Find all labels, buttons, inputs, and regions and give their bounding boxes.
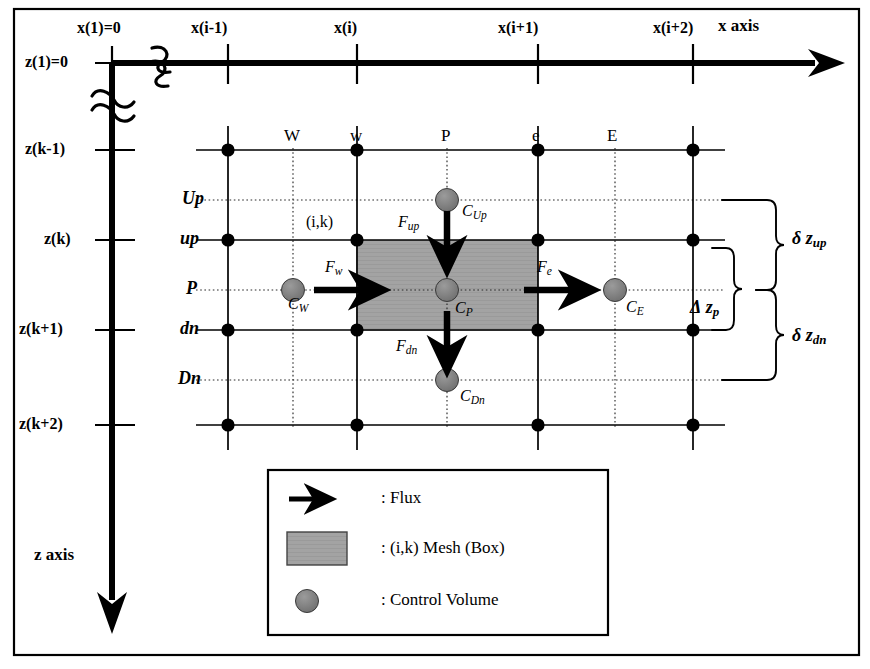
- flux-label-F_up: Fup: [398, 213, 419, 232]
- x-tick-label-4: x(i+2): [653, 19, 693, 37]
- conc-base-C_P: C: [455, 299, 466, 316]
- concentration-label-C_E: CE: [626, 298, 644, 317]
- flux-sub-F_e: e: [547, 265, 552, 277]
- flux-label-F_dn: Fdn: [396, 337, 417, 356]
- x-tick-label-3: x(i+1): [498, 19, 538, 37]
- z-tick-label-2: z(k): [44, 230, 71, 248]
- z-tick-label-0: z(1)=0: [25, 53, 68, 71]
- flux-base-F_dn: F: [396, 337, 406, 354]
- conc-base-C_W: C: [288, 295, 299, 312]
- spacing-base-z-dn: z: [806, 325, 813, 345]
- concentration-label-C_W: CW: [288, 295, 308, 314]
- conc-sub-C_E: E: [637, 305, 644, 317]
- z-tick-label-4: z(k+2): [19, 415, 63, 433]
- legend-glyph-gray-rect: [287, 532, 347, 565]
- flux-label-F_e: Fe: [537, 258, 552, 277]
- legend-text-flux: : Flux: [381, 488, 421, 508]
- row-label-up: up: [180, 228, 199, 249]
- row-label-Dn: Dn: [178, 368, 201, 389]
- z-tick-label-1: z(k-1): [25, 140, 65, 158]
- column-label-W: W: [284, 126, 300, 146]
- flux-sub-F_up: up: [408, 220, 420, 232]
- column-label-e: e: [532, 126, 540, 146]
- x-tick-label-1: x(i-1): [191, 19, 227, 37]
- x-tick-label-2: x(i): [334, 19, 357, 37]
- spacing-label-delta-z-up: δ zup: [792, 228, 826, 251]
- x-tick-label-0: x(1)=0: [77, 19, 121, 37]
- spacing-sub-p: p: [713, 304, 719, 319]
- brace-delta-z-dn: [722, 290, 784, 380]
- conc-base-C_Up: C: [462, 202, 473, 219]
- spacing-symbol-Delta-p: Δ: [690, 297, 701, 317]
- flux-base-F_e: F: [537, 258, 547, 275]
- flux-sub-F_dn: dn: [406, 344, 418, 356]
- x-axis: [112, 44, 845, 86]
- conc-sub-C_Dn: Dn: [471, 394, 485, 406]
- column-label-w: w: [350, 126, 362, 146]
- spacing-base-z-p: z: [706, 297, 713, 317]
- column-label-P: P: [441, 126, 450, 146]
- diagram-svg: [0, 0, 870, 669]
- conc-sub-C_P: P: [466, 306, 473, 318]
- conc-sub-C_Up: Up: [473, 209, 487, 221]
- spacing-symbol-delta-up: δ: [792, 228, 801, 248]
- spacing-label-Delta-z-p: Δ zp: [690, 297, 719, 320]
- control-volume-C_E: [604, 279, 627, 302]
- conc-base-C_E: C: [626, 298, 637, 315]
- flux-label-F_w: Fw: [325, 258, 342, 277]
- z-tick-label-3: z(k+1): [19, 320, 63, 338]
- control-volume-C_Up: [436, 189, 459, 212]
- figure-canvas: x axis z axis x(1)=0 x(i-1) x(i) x(i+1) …: [0, 0, 870, 669]
- row-label-P: P: [186, 278, 197, 299]
- spacing-sub-up: up: [813, 235, 827, 250]
- z-axis-label: z axis: [34, 545, 74, 565]
- row-label-Up: Up: [182, 188, 204, 209]
- legend-text-mesh-box: : (i,k) Mesh (Box): [381, 538, 505, 558]
- row-label-dn: dn: [180, 318, 199, 339]
- x-axis-break-symbol: [150, 47, 170, 86]
- conc-sub-C_W: W: [299, 302, 309, 314]
- spacing-symbol-delta-dn: δ: [792, 325, 801, 345]
- flux-base-F_w: F: [325, 258, 335, 275]
- mesh-cell-index-label: (i,k): [306, 213, 333, 231]
- spacing-braces: [712, 200, 784, 380]
- flux-sub-F_w: w: [335, 265, 343, 277]
- conc-base-C_Dn: C: [460, 387, 471, 404]
- concentration-label-C_P: CP: [455, 299, 473, 318]
- z-axis: [92, 63, 135, 634]
- spacing-label-delta-z-dn: δ zdn: [792, 325, 826, 348]
- spacing-base-z-up: z: [806, 228, 813, 248]
- brace-delta-z-up: [722, 200, 784, 290]
- column-label-E: E: [607, 126, 617, 146]
- spacing-sub-dn: dn: [813, 332, 827, 347]
- flux-base-F_up: F: [398, 213, 408, 230]
- concentration-label-C_Dn: CDn: [460, 387, 485, 406]
- concentration-label-C_Up: CUp: [462, 202, 487, 221]
- outer-frame: [14, 9, 859, 655]
- legend-text-control-volume: : Control Volume: [381, 590, 498, 610]
- legend-glyph-gray-circle: [296, 590, 319, 613]
- x-axis-label: x axis: [718, 16, 759, 36]
- control-volume-C_Dn: [436, 369, 459, 392]
